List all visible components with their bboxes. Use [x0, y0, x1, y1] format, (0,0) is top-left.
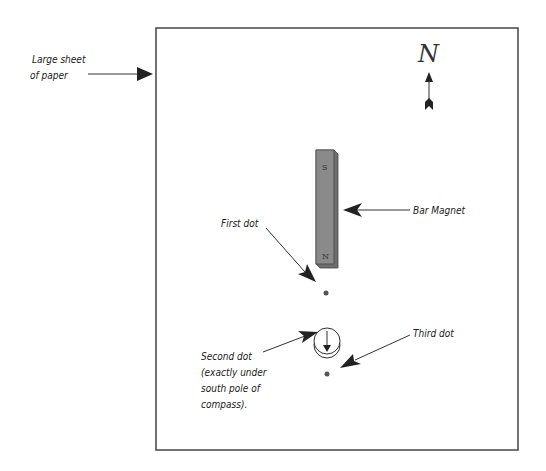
- bar-magnet: S N: [316, 150, 338, 268]
- north-label: N: [418, 40, 439, 68]
- diagram-canvas: S N: [0, 0, 546, 471]
- third-dot-label: Third dot: [413, 326, 454, 341]
- paper-label-line1: Large sheet: [32, 52, 85, 67]
- second-dot-label-line4: compass).: [201, 397, 247, 412]
- second-dot-label-line1: Second dot: [201, 349, 252, 364]
- compass-icon: [314, 328, 340, 358]
- first-dot-label: First dot: [221, 216, 258, 231]
- second-dot-label-line3: south pole of: [201, 381, 260, 396]
- magnet-south-pole: S: [322, 163, 327, 172]
- second-dot-label-line2: (exactly under: [201, 365, 267, 380]
- magnet-north-pole: N: [322, 252, 329, 261]
- first-dot: [324, 291, 329, 296]
- third-dot: [325, 372, 330, 377]
- bar-magnet-label: Bar Magnet: [413, 203, 465, 218]
- paper-arrow: [88, 67, 153, 81]
- paper-label-line2: of paper: [30, 68, 68, 83]
